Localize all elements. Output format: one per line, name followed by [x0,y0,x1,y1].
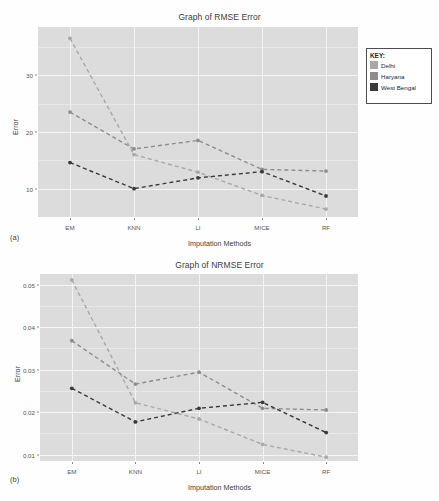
x-tick-label: MICE [255,468,270,475]
y-tick-label: 0.03 [0,366,35,373]
data-point [134,420,138,424]
x-tick-label: KNN [129,468,142,475]
legend-label-delhi: Delhi [381,62,395,69]
chart-rmse: Graph of RMSE Error Imputation Methods E… [0,0,439,252]
x-axis-title-rmse: Imputation Methods [0,239,439,248]
data-point [196,176,200,180]
y-tick-mark [35,188,37,189]
legend-label-haryana: Haryana [381,73,404,80]
y-tick-mark [35,75,37,76]
data-point [68,110,72,114]
x-tick-label: KNN [127,224,140,231]
x-tick-mark [198,218,199,220]
legend-item-delhi: Delhi [370,61,428,69]
legend-rmse: KEY: Delhi Haryana West Bengal [366,48,432,104]
data-point [68,36,72,40]
y-tick-label: 30 [0,72,33,79]
data-point [70,339,74,343]
x-tick-mark [326,462,327,464]
legend-item-west-bengal: West Bengal [370,83,428,91]
plot-lines-rmse [0,0,439,252]
legend-swatch-haryana [370,72,378,80]
x-tick-label: EM [65,224,74,231]
x-axis-title-nrmse: Imputation Methods [0,483,439,492]
y-tick-label: 10 [0,185,33,192]
data-point [324,207,328,211]
data-point [70,386,74,390]
data-point [324,194,328,198]
y-tick-mark [37,369,39,370]
x-tick-mark [135,462,136,464]
plot-lines-nrmse [0,252,439,501]
x-tick-mark [263,462,264,464]
data-point [260,194,264,198]
y-tick-label: 20 [0,128,33,135]
data-point [196,170,200,174]
legend-label-west-bengal: West Bengal [381,84,416,91]
data-point [324,455,328,459]
x-tick-label: LI [195,224,200,231]
data-point [68,161,72,165]
data-point [134,401,138,405]
x-tick-mark [70,218,71,220]
x-tick-mark [262,218,263,220]
y-tick-mark [35,131,37,132]
data-point [132,147,136,151]
subcaption-a: (a) [10,233,19,242]
y-tick-mark [37,412,39,413]
x-tick-mark [199,462,200,464]
data-point [324,408,328,412]
x-tick-label: RF [322,468,330,475]
data-point [134,382,138,386]
series-line-haryana [72,341,326,410]
figure-two-panel-charts: Graph of RMSE Error Imputation Methods E… [0,0,439,501]
series-line-delhi [72,280,326,457]
y-tick-mark [37,454,39,455]
series-line-delhi [70,38,326,209]
subcaption-b: (b) [10,475,19,484]
legend-title: KEY: [370,52,428,59]
data-point [197,370,201,374]
legend-swatch-delhi [370,61,378,69]
data-point [324,431,328,435]
data-point [132,187,136,191]
x-tick-label: EM [67,468,76,475]
x-tick-mark [326,218,327,220]
x-tick-label: MICE [254,224,269,231]
data-point [197,406,201,410]
legend-item-haryana: Haryana [370,72,428,80]
legend-swatch-west-bengal [370,83,378,91]
series-line-west-bengal [72,388,326,432]
chart-nrmse: Graph of NRMSE Error Imputation Methods … [0,252,439,501]
data-point [261,443,265,447]
x-tick-mark [134,218,135,220]
data-point [260,170,264,174]
y-tick-label: 0.05 [0,281,35,288]
y-tick-label: 0.02 [0,409,35,416]
y-tick-mark [37,284,39,285]
y-tick-label: 0.04 [0,324,35,331]
x-tick-label: RF [322,224,330,231]
x-tick-mark [72,462,73,464]
data-point [197,417,201,421]
y-tick-mark [37,327,39,328]
data-point [196,139,200,143]
data-point [261,400,265,404]
data-point [132,153,136,157]
data-point [70,278,74,282]
x-tick-label: LI [196,468,201,475]
data-point [324,169,328,173]
y-tick-label: 0.01 [0,451,35,458]
data-point [261,406,265,410]
